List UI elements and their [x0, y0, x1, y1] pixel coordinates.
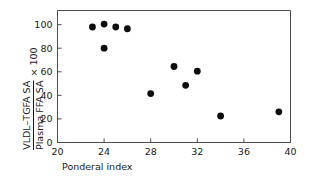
x-axis-title: Ponderal index: [62, 161, 133, 172]
x-tick-label: 32: [191, 146, 203, 157]
data-point: [194, 68, 201, 75]
data-point: [182, 82, 189, 89]
y-axis-title: VLDL–TGFA SA Plasma FFA SA × 100: [21, 47, 45, 150]
x-tick-label: 24: [98, 146, 110, 157]
data-point: [89, 24, 96, 31]
svg-text:VLDL–TGFA SA: VLDL–TGFA SA: [21, 80, 32, 150]
y-tick-label: 100: [34, 19, 52, 30]
data-points: [89, 21, 282, 120]
x-tick-label: 36: [238, 146, 250, 157]
y-tick-label: 80: [40, 43, 52, 54]
data-point: [147, 90, 154, 97]
data-point: [101, 45, 108, 52]
data-point: [101, 21, 108, 28]
data-point: [217, 113, 224, 120]
data-point: [171, 63, 178, 70]
data-point: [275, 108, 282, 115]
scatter-plot-figure: 202428323640 020406080100 Ponderal index…: [0, 0, 310, 176]
data-point: [112, 24, 119, 31]
y-tick-label: 0: [46, 137, 52, 148]
svg-text:Ponderal index: Ponderal index: [62, 161, 133, 172]
svg-text:Plasma FFA SA: Plasma FFA SA: [34, 80, 45, 150]
x-tick-label: 20: [51, 146, 63, 157]
x-tick-label: 40: [284, 146, 296, 157]
data-point: [124, 25, 131, 32]
y-tick-label: 60: [40, 66, 52, 77]
x-axis-ticks: 202428323640: [51, 139, 296, 157]
x-tick-label: 28: [145, 146, 157, 157]
svg-text:× 100: × 100: [28, 47, 39, 76]
